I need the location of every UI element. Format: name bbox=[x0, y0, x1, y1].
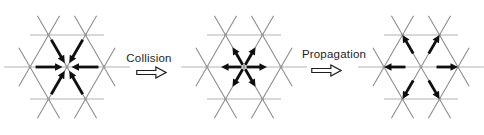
particle-arrow-W bbox=[384, 63, 405, 70]
particle-arrow-E bbox=[71, 63, 98, 70]
particle-arrow-E bbox=[247, 63, 267, 70]
lattice-panel-after-collision bbox=[181, 16, 307, 119]
propagation-step-arrow-icon bbox=[311, 64, 342, 77]
lattice-node bbox=[103, 66, 106, 69]
particle-arrow-NE bbox=[429, 35, 440, 54]
particle-arrow-W bbox=[36, 63, 63, 70]
lattice-node bbox=[47, 34, 50, 37]
particle-arrow-NW bbox=[403, 35, 414, 54]
particle-arrow-SW bbox=[233, 69, 243, 87]
lattice-node bbox=[261, 34, 264, 37]
lattice-node bbox=[420, 66, 423, 69]
particle-arrow-SW bbox=[51, 71, 65, 94]
lattice-node bbox=[243, 66, 246, 69]
lattice-diagram-canvas bbox=[0, 0, 484, 135]
particle-arrow-NW bbox=[51, 40, 65, 63]
lattice-node bbox=[84, 34, 87, 37]
particle-arrow-NE bbox=[245, 47, 255, 65]
particle-arrow-SW bbox=[403, 80, 414, 99]
lattice-node bbox=[224, 98, 227, 101]
propagation-label: Propagation bbox=[289, 48, 379, 60]
particle-arrow-SE bbox=[429, 80, 440, 99]
particle-arrow-SE bbox=[245, 69, 255, 87]
particle-arrow-W bbox=[221, 63, 241, 70]
lattice-gas-figure: Collision Propagation bbox=[0, 0, 484, 135]
particle-arrow-E bbox=[437, 63, 458, 70]
particle-arrow-SE bbox=[69, 71, 83, 94]
lattice-node bbox=[29, 66, 32, 69]
lattice-panel-initial-state bbox=[4, 16, 130, 119]
lattice-node bbox=[84, 98, 87, 101]
particle-arrow-NW bbox=[233, 47, 243, 65]
particle-arrow-NE bbox=[69, 40, 83, 63]
lattice-node bbox=[66, 66, 69, 69]
collision-label: Collision bbox=[104, 52, 194, 64]
lattice-node bbox=[280, 66, 283, 69]
lattice-node bbox=[261, 98, 264, 101]
lattice-node bbox=[224, 34, 227, 37]
lattice-node bbox=[206, 66, 209, 69]
collision-step-arrow-icon bbox=[136, 66, 167, 79]
lattice-node bbox=[47, 98, 50, 101]
lattice-panel-after-propagation bbox=[358, 16, 484, 119]
